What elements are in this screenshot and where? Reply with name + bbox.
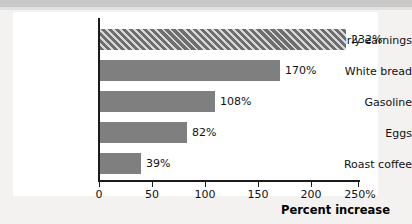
- x-tick-label-0: 0: [96, 188, 103, 201]
- bar-value-hourly-earnings: 232%: [351, 33, 382, 46]
- top-gray-band: [0, 0, 412, 7]
- bar-chart-figure: Hourly earnings White bread Gasoline Egg…: [0, 0, 412, 224]
- x-tick-label-100: 100: [195, 188, 216, 201]
- x-tick-label-250: 250%: [344, 188, 375, 201]
- x-tick-150: [258, 182, 259, 187]
- x-axis-line: [98, 180, 360, 182]
- bar-gasoline: [100, 91, 215, 112]
- x-tick-250: [358, 182, 359, 187]
- bar-value-roast-coffee: 39%: [146, 157, 170, 170]
- bar-value-gasoline: 108%: [220, 95, 251, 108]
- x-tick-200: [311, 182, 312, 187]
- bar-white-bread: [100, 60, 280, 81]
- bar-hourly-earnings: [100, 29, 346, 50]
- x-tick-100: [205, 182, 206, 187]
- x-axis-title: Percent increase: [281, 203, 390, 217]
- x-tick-50: [152, 182, 153, 187]
- category-label-eggs: Eggs: [320, 127, 412, 140]
- bar-value-white-bread: 170%: [285, 64, 316, 77]
- category-label-roast-coffee: Roast coffee: [320, 158, 412, 171]
- x-tick-label-200: 200: [301, 188, 322, 201]
- x-tick-label-50: 50: [145, 188, 159, 201]
- bar-value-eggs: 82%: [192, 126, 216, 139]
- x-tick-label-150: 150: [248, 188, 269, 201]
- category-label-white-bread: White bread: [320, 65, 412, 78]
- category-label-gasoline: Gasoline: [320, 96, 412, 109]
- bar-eggs: [100, 122, 187, 143]
- bar-roast-coffee: [100, 153, 141, 174]
- x-tick-0: [99, 182, 100, 187]
- top-gray-band-fade: [0, 7, 412, 10]
